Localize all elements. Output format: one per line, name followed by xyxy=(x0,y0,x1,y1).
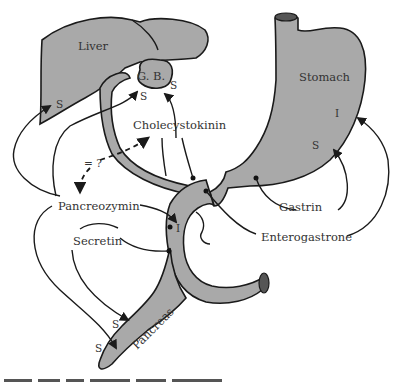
secretin-label: Secretin xyxy=(73,234,123,248)
pancreas-s-marker-1: S xyxy=(112,318,119,330)
gb-s-marker-2: S xyxy=(170,79,177,91)
figure-caption-truncated xyxy=(4,379,254,387)
enterogastrone-label: Enterogastrone xyxy=(261,230,352,244)
relation-label: = ? xyxy=(84,157,102,169)
stomach-label: Stomach xyxy=(299,70,351,84)
liver-s-marker: S xyxy=(56,98,63,110)
stomach xyxy=(210,13,366,206)
liver xyxy=(40,17,208,124)
stomach-i-marker: I xyxy=(335,107,339,119)
digestive-hormone-diagram: Liver G. B. Stomach Pancreas Cholecystok… xyxy=(0,0,406,387)
gallbladder-label: G. B. xyxy=(137,69,165,83)
liver-label: Liver xyxy=(78,39,109,53)
gastrin-label: Gastrin xyxy=(279,200,323,214)
pancreas xyxy=(99,248,186,369)
gb-s-marker-1: S xyxy=(140,90,147,102)
duodenum-i-marker: I xyxy=(176,222,180,234)
cholecystokinin-label: Cholecystokinin xyxy=(133,118,227,132)
pancreas-s-marker-2: S xyxy=(95,342,102,354)
pancreozymin-label: Pancreozymin xyxy=(58,199,140,213)
stomach-s-marker: S xyxy=(312,139,319,151)
